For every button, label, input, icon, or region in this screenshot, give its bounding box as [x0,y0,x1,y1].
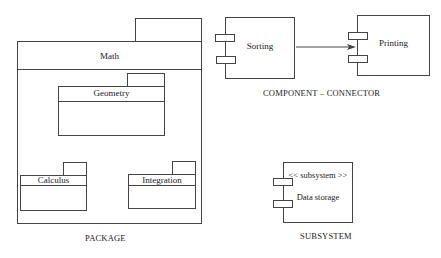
math-package-label: Math [18,51,201,61]
geometry-package-label: Geometry [59,88,164,98]
connector-arrow-icon [294,41,358,53]
integration-package[interactable]: Integration [128,174,196,209]
sorting-component-label: Sorting [226,41,294,51]
calculus-package-header-divider [21,185,86,186]
geometry-package-header-divider [59,101,164,102]
math-package-header-divider [18,69,201,70]
data-storage-subsystem[interactable]: << subsystem >> Data storage [283,162,353,223]
printing-component-label: Printing [358,38,429,48]
sorting-port-top [215,34,235,42]
printing-component[interactable]: Printing [357,15,430,76]
calculus-package-label: Calculus [21,175,86,185]
integration-package-tab [172,161,196,175]
subsystem-caption: SUBSYSTEM [300,231,352,241]
subsystem-port-bottom [273,200,293,208]
integration-package-header-divider [129,185,195,186]
sorting-component[interactable]: Sorting [225,17,295,79]
calculus-package-tab [63,162,87,176]
calculus-package[interactable]: Calculus [20,175,87,211]
package-caption: PACKAGE [85,233,126,243]
subsystem-name: Data storage [284,192,352,202]
subsystem-port-top [273,178,293,186]
math-package-tab [135,18,202,42]
printing-port-top [348,32,368,40]
component-connector-caption: COMPONENT – CONNECTOR [263,88,380,98]
integration-package-label: Integration [129,175,195,185]
subsystem-stereotype: << subsystem >> [284,170,352,180]
printing-port-bottom [348,55,368,63]
geometry-package[interactable]: Geometry [58,86,165,136]
sorting-port-bottom [216,56,236,64]
geometry-package-tab [127,73,165,87]
